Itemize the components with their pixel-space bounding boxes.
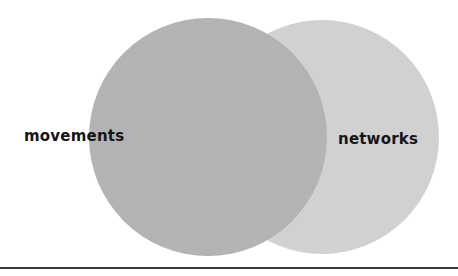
movements-label: movements xyxy=(24,129,124,144)
bottom-rule-divider xyxy=(0,267,458,269)
networks-label: networks xyxy=(338,132,418,147)
venn-diagram: movements networks xyxy=(0,0,458,276)
